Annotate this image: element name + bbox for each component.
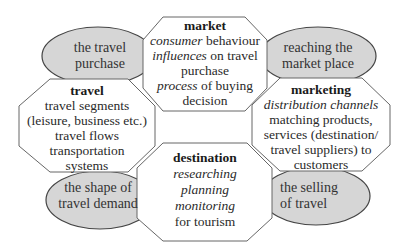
marketing-text: marketing distribution channels matching… [250, 82, 392, 172]
destination-title: destination [140, 150, 270, 166]
ellipse-line: purchase [60, 56, 140, 72]
ellipse-line: the travel [60, 40, 140, 56]
ellipse-text-travel-demand: the shape of travel demand [46, 180, 150, 212]
text: systems [16, 158, 158, 173]
text: matching products, [250, 112, 392, 127]
text-italic: consumer [150, 33, 203, 48]
text-italic: researching [140, 166, 270, 182]
text: (leisure, business etc.) [16, 113, 158, 128]
text: travel suppliers) to [250, 142, 392, 157]
ellipse-text-travel-purchase: the travel purchase [60, 40, 140, 72]
text: on travel [207, 48, 258, 63]
travel-title: travel [16, 83, 158, 98]
text: travel segments [16, 98, 158, 113]
ellipse-line: the selling [280, 180, 360, 196]
text-italic: process [157, 78, 198, 93]
ellipse-line: market place [270, 56, 366, 72]
text-italic: monitoring [140, 198, 270, 214]
text: purchase [140, 63, 270, 78]
text: behaviour [203, 33, 260, 48]
ellipse-line: travel demand [46, 196, 150, 212]
text: services (destination/ [250, 127, 392, 142]
travel-text: travel travel segments (leisure, busines… [16, 83, 158, 173]
text: travel flows [16, 128, 158, 143]
destination-text: destination researching planning monitor… [140, 150, 270, 230]
text-italic: distribution channels [250, 97, 392, 112]
text: for tourism [140, 214, 270, 230]
ellipse-text-market-place: reaching the market place [270, 40, 366, 72]
ellipse-text-selling-travel: the selling of travel [280, 180, 360, 212]
text: transportation [16, 143, 158, 158]
text: of buying [198, 78, 254, 93]
marketing-title: marketing [250, 82, 392, 97]
ellipse-line: reaching the [270, 40, 366, 56]
text-italic: planning [140, 182, 270, 198]
text-italic: influences [152, 48, 207, 63]
ellipse-line: of travel [280, 196, 360, 212]
text: customers [250, 157, 392, 172]
ellipse-line: the shape of [46, 180, 150, 196]
market-title: market [140, 18, 270, 33]
